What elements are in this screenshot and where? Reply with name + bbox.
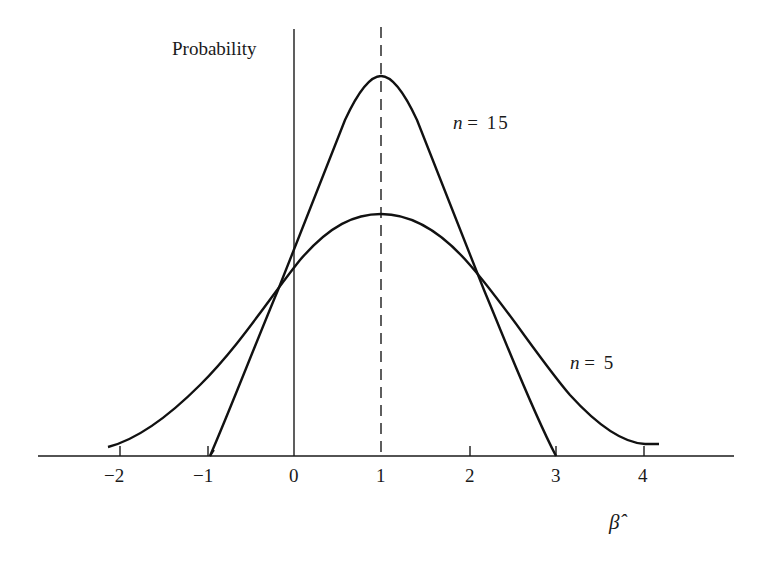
n15-variable: n: [453, 112, 463, 133]
x-axis-label: β̂: [609, 510, 619, 535]
tick-label: −1: [193, 465, 213, 487]
annotation-n5: n = 5: [570, 352, 615, 374]
tick-label: −2: [104, 465, 124, 487]
tick-label: 0: [289, 465, 299, 487]
x-ticks: [120, 446, 644, 456]
tick-label: 4: [638, 465, 648, 487]
tick-label: 1: [376, 465, 386, 487]
n5-variable: n: [570, 352, 580, 373]
y-axis-label: Probability: [172, 38, 256, 60]
n5-value: = 5: [584, 352, 615, 373]
n15-value: = 15: [467, 112, 509, 133]
annotation-n15: n = 15: [453, 112, 510, 134]
tick-label: 2: [465, 465, 475, 487]
tick-label: 3: [551, 465, 561, 487]
series-n5-curve: [108, 214, 659, 447]
